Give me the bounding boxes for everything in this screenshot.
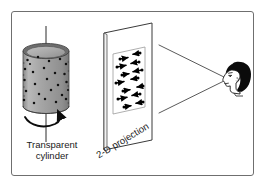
cylinder-label: Transparent cylinder bbox=[12, 139, 92, 161]
figure-root: Transparent cylinder 2-D projection bbox=[0, 0, 266, 189]
transparent-cylinder bbox=[23, 43, 69, 113]
cylinder-label-line2: cylinder bbox=[36, 150, 69, 161]
view-cone-icon bbox=[159, 45, 228, 113]
cylinder-label-line1: Transparent bbox=[27, 139, 78, 150]
rotation-arrow-icon bbox=[25, 115, 60, 127]
observer-head bbox=[223, 62, 251, 96]
